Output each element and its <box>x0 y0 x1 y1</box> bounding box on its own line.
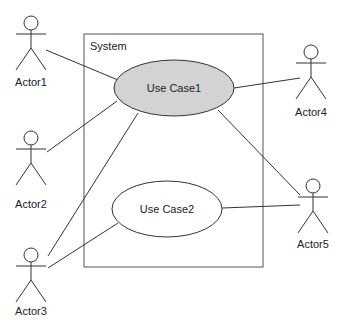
actor-4-label: Actor4 <box>295 106 327 118</box>
actor-3-label: Actor3 <box>15 305 47 317</box>
stick-figure-icon <box>298 179 328 233</box>
system-label: System <box>90 40 127 52</box>
actor-2-label: Actor2 <box>15 198 47 210</box>
actor-5[interactable]: Actor5 <box>297 179 329 250</box>
use-case-2[interactable]: Use Case2 <box>112 181 222 237</box>
use-case-1[interactable]: Use Case1 <box>114 60 234 116</box>
use-case-diagram: System Use Case1 Use Case2 Actor1 <box>0 0 345 329</box>
stick-figure-icon <box>296 45 326 99</box>
actor-5-label: Actor5 <box>297 238 329 250</box>
stick-figure-icon <box>16 16 46 70</box>
actor-2[interactable]: Actor2 <box>15 131 47 210</box>
actor-3[interactable]: Actor3 <box>15 248 47 317</box>
use-case-1-label: Use Case1 <box>147 82 201 94</box>
actor-1-label: Actor1 <box>15 76 47 88</box>
stick-figure-icon <box>16 131 46 185</box>
actor-1[interactable]: Actor1 <box>15 16 47 88</box>
stick-figure-icon <box>16 248 46 302</box>
actor-4[interactable]: Actor4 <box>295 45 327 118</box>
use-case-2-label: Use Case2 <box>140 203 194 215</box>
